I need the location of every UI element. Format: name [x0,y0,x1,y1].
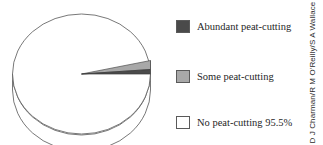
swatch-none-icon [176,116,190,129]
legend-label-abundant: Abundant peat-cutting [197,20,291,33]
credit-container: D J Charman/R M O'Reilly/S A Wallace [304,0,322,145]
swatch-some-icon [176,70,190,83]
pie-chart-graphic [0,0,170,145]
legend-item-abundant-peat-cutting[interactable]: Abundant peat-cutting [176,18,291,34]
legend-item-some-peat-cutting[interactable]: Some peat-cutting [176,68,274,84]
legend-item-no-peat-cutting[interactable]: No peat-cutting 95.5% [176,114,292,130]
chart-legend: Abundant peat-cutting Some peat-cutting … [176,0,304,145]
swatch-abundant-icon [176,20,190,33]
legend-label-none: No peat-cutting 95.5% [197,116,292,129]
pie-chart-figure: Abundant peat-cutting Some peat-cutting … [0,0,323,145]
legend-label-some: Some peat-cutting [197,70,274,83]
credit-text: D J Charman/R M O'Reilly/S A Wallace [309,2,318,144]
pie-svg [0,0,170,145]
